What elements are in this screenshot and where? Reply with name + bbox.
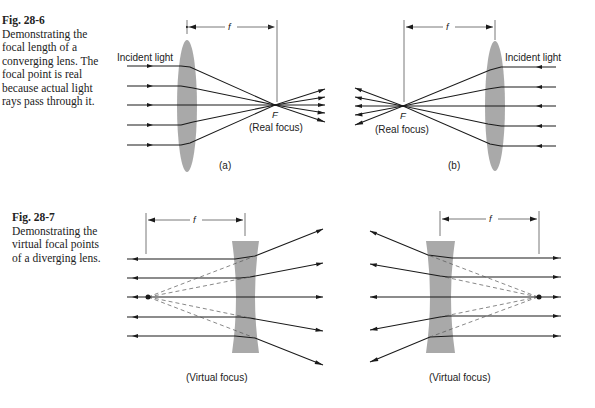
panel-b-converging-lens: f Incident light F (Real foc bbox=[355, 20, 561, 171]
focal-point-label: F bbox=[400, 110, 407, 121]
virtual-focus-label: (Virtual focus) bbox=[186, 372, 248, 383]
focal-length-label: f bbox=[193, 214, 197, 225]
panel-label-a: (a) bbox=[219, 160, 231, 171]
optics-diagrams: f Incident light F (Rea bbox=[0, 0, 595, 408]
converging-lens bbox=[177, 40, 197, 172]
diverging-lens-right-panel: f (Virtual focus) bbox=[370, 211, 561, 383]
incident-light-label: Incident light bbox=[505, 52, 561, 63]
panel-label-b: (b) bbox=[448, 160, 460, 171]
virtual-focus-point bbox=[146, 295, 151, 300]
panel-a-converging-lens: f Incident light F (Rea bbox=[117, 20, 325, 172]
focal-length-label: f bbox=[446, 21, 450, 32]
real-focus-label: (Real focus) bbox=[249, 122, 303, 133]
diverging-lens-left-panel: f (Virtual focus) bbox=[127, 213, 323, 383]
focal-point-label: F bbox=[272, 109, 279, 120]
real-focus-label: (Real focus) bbox=[375, 124, 429, 135]
focal-length-label: f bbox=[489, 213, 493, 224]
incident-light-label: Incident light bbox=[117, 52, 173, 63]
virtual-focus-label: (Virtual focus) bbox=[429, 372, 491, 383]
virtual-focus-point bbox=[537, 295, 542, 300]
focal-length-label: f bbox=[228, 21, 232, 32]
